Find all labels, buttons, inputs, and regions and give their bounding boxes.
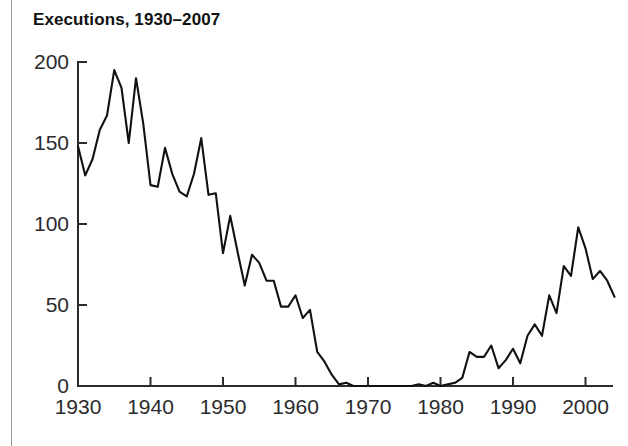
x-tick-label: 1990 bbox=[490, 395, 537, 418]
x-tick-label: 2000 bbox=[562, 395, 609, 418]
x-tick-label: 1960 bbox=[272, 395, 319, 418]
y-tick-label: 200 bbox=[34, 50, 69, 73]
data-series-executions bbox=[78, 70, 615, 386]
x-tick-label: 1930 bbox=[55, 395, 102, 418]
x-tick-label: 1940 bbox=[127, 395, 174, 418]
chart-svg: 050100150200 193019401950196019701980199… bbox=[0, 0, 628, 446]
x-tick-label: 1970 bbox=[345, 395, 392, 418]
chart-figure: Executions, 1930–2007 050100150200 19301… bbox=[0, 0, 628, 446]
y-axis: 050100150200 bbox=[34, 50, 87, 397]
series-path bbox=[78, 70, 615, 386]
y-tick-label: 150 bbox=[34, 131, 69, 154]
plot-area: 050100150200 193019401950196019701980199… bbox=[0, 0, 628, 446]
x-axis: 19301940195019601970198019902000 bbox=[55, 377, 612, 418]
x-tick-label: 1950 bbox=[200, 395, 247, 418]
y-tick-label: 100 bbox=[34, 212, 69, 235]
y-tick-label: 50 bbox=[46, 293, 69, 316]
x-tick-label: 1980 bbox=[417, 395, 464, 418]
y-tick-label: 0 bbox=[57, 374, 69, 397]
